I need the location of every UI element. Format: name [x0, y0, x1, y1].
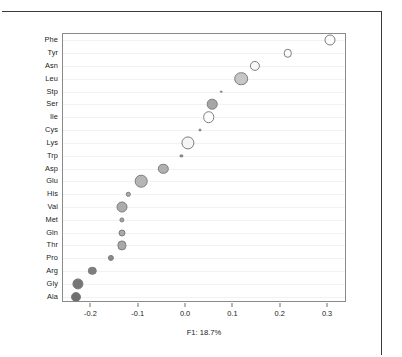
gridline — [63, 220, 345, 221]
y-axis-tick-label: Phe — [45, 35, 58, 44]
data-point-bubble — [118, 229, 125, 236]
y-axis-tick-label: Lys — [46, 137, 58, 146]
y-axis-tick-label: Asn — [45, 61, 58, 70]
gridline — [63, 297, 345, 298]
gridline — [63, 245, 345, 246]
data-point-bubble — [71, 292, 81, 302]
x-axis-tick-label: 0.2 — [275, 309, 285, 318]
y-axis-tick-label: His — [47, 189, 58, 198]
y-axis-tick-label: Ser — [46, 99, 58, 108]
x-axis-tick-mark — [279, 303, 280, 307]
x-axis-tick-mark — [327, 303, 328, 307]
gridline — [63, 66, 345, 67]
x-axis-title: F1: 18.7% — [62, 328, 346, 337]
gridline — [63, 92, 345, 93]
data-point-bubble — [250, 61, 260, 71]
scatter-plot-figure: PheTyrAsnLeuStpSerIleCysLysTrpAspGluHisV… — [0, 0, 402, 357]
gridline — [63, 143, 345, 144]
x-axis-tick-mark — [185, 303, 186, 307]
gridline — [63, 207, 345, 208]
gridline — [63, 53, 345, 54]
gridline — [63, 130, 345, 131]
y-axis-tick-label: Gly — [47, 278, 58, 287]
gridline — [63, 40, 345, 41]
data-point-bubble — [181, 136, 194, 149]
gridline — [63, 104, 345, 105]
gridline — [63, 194, 345, 195]
y-axis-tick-label: Tyr — [47, 48, 58, 57]
data-point-bubble — [73, 278, 84, 289]
data-point-bubble — [199, 129, 202, 132]
x-axis-tick-label: 0.3 — [322, 309, 332, 318]
y-axis-tick-label: Cys — [45, 125, 58, 134]
data-point-bubble — [158, 163, 168, 173]
x-axis-tick-label: 0.0 — [180, 309, 190, 318]
gridline — [63, 233, 345, 234]
data-point-bubble — [234, 72, 248, 86]
gridline — [63, 79, 345, 80]
x-axis-tick-mark — [232, 303, 233, 307]
y-axis-tick-label: Met — [45, 214, 58, 223]
data-point-bubble — [117, 201, 128, 212]
x-axis-tick-mark — [137, 303, 138, 307]
y-axis-tick-label: Trp — [47, 150, 58, 159]
data-point-bubble — [220, 90, 223, 93]
gridline — [63, 258, 345, 259]
x-axis-tick-mark — [90, 303, 91, 307]
data-point-bubble — [88, 267, 96, 275]
data-point-bubble — [118, 241, 127, 250]
gridline — [63, 271, 345, 272]
y-axis-tick-label: Val — [48, 201, 58, 210]
y-axis-labels: PheTyrAsnLeuStpSerIleCysLysTrpAspGluHisV… — [0, 33, 58, 302]
data-point-bubble — [108, 255, 114, 261]
y-axis-tick-label: Pro — [46, 253, 58, 262]
gridline — [63, 156, 345, 157]
x-axis-tick-label: 0.1 — [227, 309, 237, 318]
y-axis-tick-label: Leu — [45, 73, 58, 82]
data-point-bubble — [203, 111, 215, 123]
gridline — [63, 181, 345, 182]
y-axis-tick-label: Stp — [47, 86, 58, 95]
data-point-bubble — [119, 217, 124, 222]
y-axis-tick-label: Ala — [47, 291, 58, 300]
y-axis-tick-label: Glu — [46, 176, 58, 185]
data-point-bubble — [135, 175, 148, 188]
y-axis-tick-label: Thr — [47, 240, 58, 249]
x-axis-tick-label: -0.2 — [84, 309, 97, 318]
y-axis-tick-label: Gln — [46, 227, 58, 236]
y-axis-tick-label: Ile — [50, 112, 58, 121]
data-point-bubble — [207, 99, 218, 110]
data-point-bubble — [180, 154, 183, 157]
x-axis: -0.2-0.10.00.10.20.3 — [62, 303, 346, 325]
plot-panel — [62, 33, 346, 302]
y-axis-tick-label: Arg — [46, 265, 58, 274]
data-point-bubble — [284, 49, 292, 57]
gridline — [63, 169, 345, 170]
y-axis-tick-label: Asp — [45, 163, 58, 172]
data-point-bubble — [126, 192, 130, 196]
data-point-bubble — [325, 35, 336, 46]
gridline — [63, 284, 345, 285]
x-axis-tick-label: -0.1 — [131, 309, 144, 318]
